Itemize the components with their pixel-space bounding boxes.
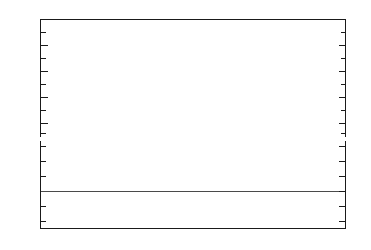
bottom-panel-left-ticks: [41, 147, 46, 222]
chart-figure: [0, 0, 371, 250]
top-panel-left-ticks: [41, 20, 48, 134]
top-panel-right-ticks: [339, 20, 346, 134]
bottom-panel-right-ticks: [339, 147, 346, 229]
top-panel-axis-frame: [41, 20, 346, 137]
statistical-chart-svg: [0, 0, 371, 250]
bottom-panel-axis-frame: [41, 141, 346, 229]
